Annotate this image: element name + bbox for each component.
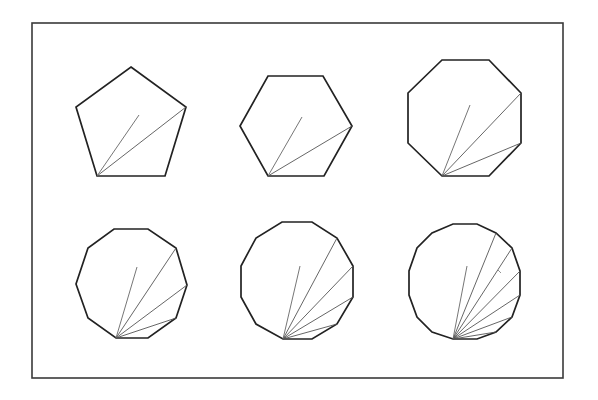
hexadecagon-diagonal	[453, 295, 520, 339]
dodecagon-diagonal	[283, 297, 353, 339]
polygon-diagonals-diagram	[0, 0, 598, 400]
hexagon-center-line	[268, 117, 302, 176]
hexadecagon-diagonal	[453, 317, 512, 339]
dodecagon-diagonal	[283, 266, 353, 339]
octagon-center-line	[442, 105, 470, 176]
pentagon-figure	[76, 67, 186, 176]
octagon-figure	[408, 60, 521, 176]
decagon-center-line	[116, 267, 137, 338]
decagon-outline	[76, 229, 187, 338]
polygon-group	[76, 60, 521, 339]
octagon-diagonal	[442, 143, 521, 176]
dodecagon-diagonal	[283, 238, 337, 339]
pentagon-outline	[76, 67, 186, 176]
decagon-figure	[76, 229, 187, 338]
dodecagon-center-line	[283, 266, 300, 339]
hexadecagon-tick-mark	[498, 270, 501, 273]
dodecagon-diagonal	[283, 324, 337, 339]
pentagon-diagonal	[97, 107, 186, 176]
dodecagon-figure	[241, 222, 353, 339]
hexadecagon-diagonal	[453, 271, 520, 339]
decagon-diagonal	[116, 318, 176, 338]
hexadecagon-diagonal	[453, 233, 496, 339]
pentagon-center-line	[97, 115, 139, 176]
octagon-diagonal	[442, 93, 521, 176]
decagon-diagonal	[116, 285, 187, 338]
hexadecagon-figure	[409, 224, 520, 339]
hexagon-outline	[240, 76, 352, 176]
hexagon-figure	[240, 76, 352, 176]
hexagon-diagonal	[268, 126, 352, 176]
